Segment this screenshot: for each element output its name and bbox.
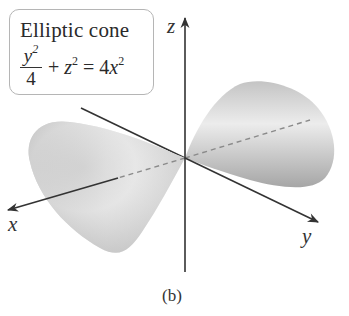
- x-axis-label: x: [8, 212, 17, 237]
- y-axis-label: y: [302, 224, 311, 249]
- label-title: Elliptic cone: [20, 18, 129, 43]
- equation-fraction: y2 4: [20, 46, 42, 89]
- z-axis-label: z: [167, 14, 175, 39]
- figure-caption: (b): [162, 286, 182, 306]
- right-cone-nappe: [185, 81, 334, 187]
- elliptic-cone-figure: Elliptic cone y2 4 + z2 = 4x2 z x y (b): [0, 0, 349, 316]
- equation-rest: + z2 = 4x2: [48, 56, 124, 79]
